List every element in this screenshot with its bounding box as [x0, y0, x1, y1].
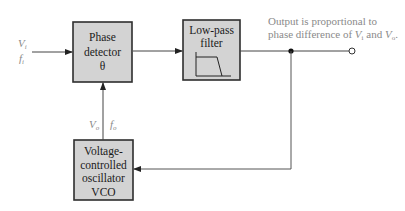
low-pass-filter-block: Low-pass filter [183, 20, 240, 80]
svg-text:Voltage-: Voltage- [84, 145, 123, 158]
svg-text:Vo: Vo [89, 118, 100, 132]
svg-text:VCO: VCO [91, 186, 115, 198]
svg-text:detector: detector [84, 46, 121, 58]
vco-block: Voltage- controlled oscillator VCO [74, 140, 133, 200]
svg-text:filter: filter [200, 37, 223, 49]
output-terminal [349, 48, 355, 54]
svg-text:fi: fi [19, 52, 24, 66]
svg-text:θ: θ [100, 60, 106, 72]
svg-text:oscillator: oscillator [82, 172, 125, 184]
input-label: Vi fi [18, 37, 27, 66]
svg-text:fo: fo [110, 118, 117, 132]
svg-text:Output is proportional to: Output is proportional to [268, 15, 378, 27]
svg-text:Vi: Vi [18, 37, 27, 51]
svg-text:Phase: Phase [89, 31, 116, 43]
pll-block-diagram: Vi fi Phase detector θ Low-pass filter O… [0, 0, 405, 211]
svg-text:phase difference of Vi and Vo.: phase difference of Vi and Vo. [268, 28, 398, 42]
phase-detector-block: Phase detector θ [73, 22, 132, 82]
svg-text:controlled: controlled [80, 159, 127, 171]
output-note: Output is proportional to phase differen… [268, 15, 398, 42]
svg-text:Low-pass: Low-pass [189, 24, 234, 37]
